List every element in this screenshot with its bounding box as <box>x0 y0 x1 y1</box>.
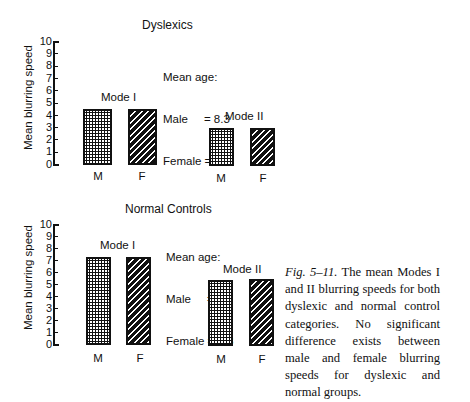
category-label-m: M <box>209 172 233 184</box>
tick-label: 4 <box>36 110 52 121</box>
figure-label: Fig. 5–11. <box>285 265 337 279</box>
tick-label: 0 <box>36 159 52 170</box>
tick-label: 1 <box>36 146 52 157</box>
caption-text: The mean Modes I and II blurring speeds … <box>285 265 440 399</box>
tick-label: 6 <box>36 85 52 96</box>
tick-label: 4 <box>36 291 52 302</box>
group-label-mode-2: Mode II <box>225 110 263 122</box>
group-label-mode-1: Mode I <box>100 239 135 251</box>
tick-label: 7 <box>36 73 52 84</box>
tick-label: 5 <box>36 97 52 108</box>
tick-label: 7 <box>36 255 52 266</box>
bar-mode1-male <box>83 109 112 165</box>
tick-label: 9 <box>36 231 52 242</box>
bar-mode1-female <box>126 257 151 345</box>
group-label-mode-2: Mode II <box>223 263 261 275</box>
tick-label: 10 <box>36 36 52 47</box>
bar-mode2-female <box>250 128 275 166</box>
chart-title: Dyslexics <box>142 18 193 32</box>
chart-title: Normal Controls <box>125 202 212 216</box>
category-label-m: M <box>209 353 233 365</box>
tick-label: 8 <box>36 243 52 254</box>
bar-mode2-female <box>249 279 274 346</box>
bar-mode1-female <box>128 109 157 165</box>
bar-mode2-male <box>208 280 233 346</box>
tick-label: 8 <box>36 60 52 71</box>
bar-mode2-male <box>209 128 234 166</box>
tick-label: 6 <box>36 267 52 278</box>
tick-label: 0 <box>36 339 52 350</box>
category-label-f: F <box>128 352 152 364</box>
mean-age-heading: Mean age: <box>163 70 230 84</box>
tick-label: 10 <box>36 219 52 230</box>
category-label-f: F <box>130 170 154 182</box>
tick-label: 3 <box>36 122 52 133</box>
mean-age-male: Male = 8.3 <box>163 112 230 126</box>
tick-label: 9 <box>36 48 52 59</box>
category-label-m: M <box>86 352 110 364</box>
group-label-mode-1: Mode I <box>101 91 136 103</box>
tick-label: 2 <box>36 134 52 145</box>
category-label-f: F <box>250 353 274 365</box>
y-axis-label: Mean blurring speed <box>22 45 34 150</box>
bar-mode1-male <box>86 257 111 345</box>
category-label-f: F <box>251 172 275 184</box>
figure-caption: Fig. 5–11. The mean Modes I and II blurr… <box>285 264 440 402</box>
mean-age-heading: Mean age: <box>166 250 233 264</box>
tick-label: 5 <box>36 279 52 290</box>
y-axis-label: Mean blurring speed <box>22 225 34 330</box>
category-label-m: M <box>86 170 110 182</box>
tick-label: 3 <box>36 303 52 314</box>
tick-label: 2 <box>36 315 52 326</box>
tick-label: 1 <box>36 327 52 338</box>
